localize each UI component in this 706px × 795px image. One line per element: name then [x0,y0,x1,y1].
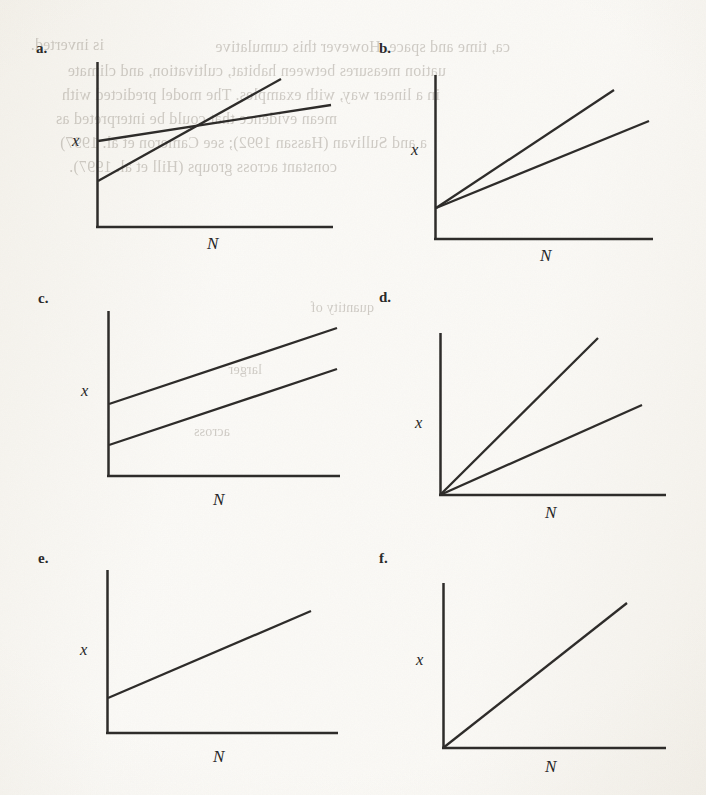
panel-f-letter: f. [379,550,388,567]
panel-c-line-2 [109,369,337,445]
panel-f-line-1 [443,603,627,748]
panel-a-line-2 [98,79,281,181]
panel-f-x-axis-label: N [545,757,556,777]
panel-b-x-axis-label: N [540,246,551,266]
panel-a-y-axis-label: x [72,131,79,151]
panel-e [0,540,360,790]
panel-e-x-axis-label: N [213,747,224,767]
panel-d [353,280,706,530]
panel-b-line-2 [436,121,649,208]
panel-f-y-axis-label: x [416,650,423,670]
panel-f-plot [353,540,706,795]
panel-b [353,0,706,270]
panel-e-line-1 [108,611,311,698]
panel-b-y-axis-label: x [411,140,418,160]
panel-d-y-axis-label: x [415,413,422,433]
panel-c [0,280,360,530]
panel-c-letter: c. [38,290,48,307]
panel-e-plot [0,540,360,790]
panel-c-x-axis-label: N [213,490,224,510]
panel-b-line-1 [436,90,614,208]
panel-f [353,540,706,795]
panel-a-plot [0,0,360,270]
panel-c-line-1 [109,328,337,404]
panel-d-letter: d. [379,289,391,306]
panel-d-line-2 [440,405,642,495]
panel-a-x-axis-label: N [207,234,218,254]
panel-a-line-1 [98,105,331,141]
panel-d-x-axis-label: N [545,503,556,523]
panel-d-line-1 [440,338,598,495]
panel-a-letter: a. [36,40,47,57]
panel-b-letter: b. [379,40,391,57]
panel-c-plot [0,280,360,530]
panel-a [0,0,360,270]
panel-c-y-axis-label: x [81,381,88,401]
panel-e-letter: e. [38,550,48,567]
panel-b-plot [353,0,706,270]
figure-page: is inverted. ca, time and space. However… [0,0,706,795]
panel-e-y-axis-label: x [80,640,87,660]
panel-d-plot [353,280,706,530]
